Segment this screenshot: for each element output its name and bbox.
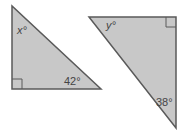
angle-38-label: 38°	[156, 97, 173, 108]
angle-y-label: y°	[106, 20, 116, 31]
right-triangle	[89, 17, 176, 128]
angle-42-label: 42°	[64, 76, 81, 87]
left-triangle	[12, 6, 101, 89]
triangles-diagram	[0, 0, 180, 130]
angle-x-label: x°	[17, 25, 27, 36]
